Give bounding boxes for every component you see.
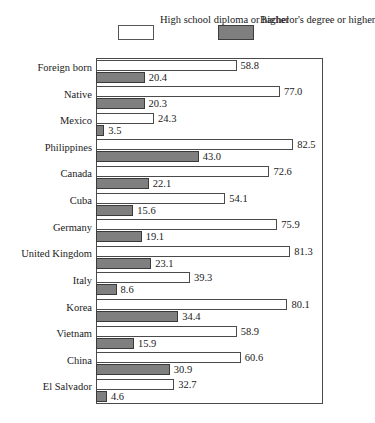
bar-value-label: 80.1 xyxy=(291,299,309,310)
bar-bachelors: 30.9 xyxy=(96,364,192,375)
bar-value-label: 58.8 xyxy=(241,60,259,71)
bar-high-school: 75.9 xyxy=(96,219,300,230)
legend-entry-bachelors: Bachelor's degree or higher xyxy=(218,14,375,40)
chart-row: Foreign born58.820.4 xyxy=(0,58,341,85)
bar-value-label: 32.7 xyxy=(178,379,196,390)
chart-row: Mexico24.33.5 xyxy=(0,111,341,138)
bar-bachelors: 15.9 xyxy=(96,338,156,349)
bar-rect xyxy=(96,86,280,97)
bar-group: 81.323.1 xyxy=(96,244,341,271)
bar-value-label: 20.3 xyxy=(149,98,167,109)
bar-high-school: 80.1 xyxy=(96,299,310,310)
bar-group: 60.630.9 xyxy=(96,351,341,378)
chart-row: Cuba54.115.6 xyxy=(0,191,341,218)
bar-high-school: 54.1 xyxy=(96,193,248,204)
bar-rect xyxy=(96,311,178,322)
bar-bachelors: 23.1 xyxy=(96,258,174,269)
bar-bachelors: 20.4 xyxy=(96,72,167,83)
legend-swatch-gray-icon xyxy=(218,25,254,40)
bar-bachelors: 3.5 xyxy=(96,125,121,136)
bar-group: 82.543.0 xyxy=(96,138,341,165)
category-label: Vietnam xyxy=(0,328,92,340)
bar-high-school: 58.9 xyxy=(96,326,259,337)
bar-rect xyxy=(96,338,134,349)
bar-rect xyxy=(96,219,277,230)
category-label: Cuba xyxy=(0,195,92,207)
category-label: China xyxy=(0,355,92,367)
bar-value-label: 82.5 xyxy=(297,139,315,150)
bar-rect xyxy=(96,193,225,204)
bar-rect xyxy=(96,125,104,136)
bar-bachelors: 4.6 xyxy=(96,391,124,402)
bar-rect xyxy=(96,258,151,269)
bar-value-label: 58.9 xyxy=(241,326,259,337)
bar-bachelors: 22.1 xyxy=(96,178,171,189)
bar-group: 24.33.5 xyxy=(96,111,341,138)
bar-value-label: 3.5 xyxy=(108,125,121,136)
chart-row: El Salvador32.74.6 xyxy=(0,377,341,404)
legend-label-bachelors: Bachelor's degree or higher xyxy=(260,14,375,26)
bar-rect xyxy=(96,326,237,337)
bar-rect xyxy=(96,231,142,242)
bar-value-label: 60.6 xyxy=(245,352,263,363)
bar-group: 58.915.9 xyxy=(96,324,341,351)
bar-rect xyxy=(96,205,133,216)
chart-row: China60.630.9 xyxy=(0,351,341,378)
bar-rect xyxy=(96,352,241,363)
bar-group: 58.820.4 xyxy=(96,58,341,85)
bar-rect xyxy=(96,98,145,109)
bar-high-school: 60.6 xyxy=(96,352,263,363)
chart-row: Philippines82.543.0 xyxy=(0,138,341,165)
category-label: Germany xyxy=(0,222,92,234)
bar-value-label: 54.1 xyxy=(229,193,247,204)
bar-group: 80.134.4 xyxy=(96,298,341,325)
bar-value-label: 20.4 xyxy=(149,72,167,83)
bar-high-school: 72.6 xyxy=(96,166,292,177)
category-label: Foreign born xyxy=(0,62,92,74)
category-label: Korea xyxy=(0,302,92,314)
bar-high-school: 81.3 xyxy=(96,246,313,257)
bar-rect xyxy=(96,299,287,310)
bar-rect xyxy=(96,272,190,283)
bar-value-label: 8.6 xyxy=(121,284,134,295)
bar-value-label: 77.0 xyxy=(284,86,302,97)
bar-bachelors: 34.4 xyxy=(96,311,201,322)
chart-row: Vietnam58.915.9 xyxy=(0,324,341,351)
category-label: Italy xyxy=(0,275,92,287)
bar-bachelors: 20.3 xyxy=(96,98,167,109)
bar-high-school: 39.3 xyxy=(96,272,212,283)
chart-row: Germany75.919.1 xyxy=(0,218,341,245)
bar-value-label: 24.3 xyxy=(158,113,176,124)
bar-value-label: 72.6 xyxy=(273,166,291,177)
bar-bachelors: 15.6 xyxy=(96,205,156,216)
legend-swatch-white-icon xyxy=(118,25,154,40)
bar-value-label: 43.0 xyxy=(203,151,221,162)
chart-rows: Foreign born58.820.4Native77.020.3Mexico… xyxy=(0,58,341,404)
category-label: Philippines xyxy=(0,142,92,154)
bar-high-school: 82.5 xyxy=(96,139,316,150)
category-label: Mexico xyxy=(0,115,92,127)
bar-value-label: 39.3 xyxy=(194,272,212,283)
bar-high-school: 24.3 xyxy=(96,113,176,124)
bar-value-label: 23.1 xyxy=(155,258,173,269)
bar-rect xyxy=(96,151,199,162)
bar-rect xyxy=(96,113,154,124)
bar-bachelors: 19.1 xyxy=(96,231,164,242)
chart-row: Italy39.38.6 xyxy=(0,271,341,298)
bar-group: 39.38.6 xyxy=(96,271,341,298)
bar-value-label: 4.6 xyxy=(111,391,124,402)
category-label: Canada xyxy=(0,168,92,180)
bar-value-label: 15.6 xyxy=(137,205,155,216)
bar-value-label: 19.1 xyxy=(146,231,164,242)
bar-rect xyxy=(96,379,174,390)
bar-value-label: 22.1 xyxy=(153,178,171,189)
category-label: Native xyxy=(0,89,92,101)
bar-rect xyxy=(96,284,117,295)
chart-row: Native77.020.3 xyxy=(0,85,341,112)
bar-group: 75.919.1 xyxy=(96,218,341,245)
category-label: United Kingdom xyxy=(0,248,92,260)
bar-rect xyxy=(96,60,237,71)
bar-high-school: 58.8 xyxy=(96,60,259,71)
bar-rect xyxy=(96,364,170,375)
